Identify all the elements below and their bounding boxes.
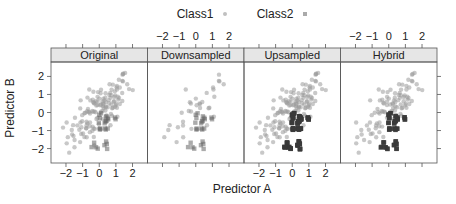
panel-original: Original−2−1012 — [51, 44, 148, 179]
panels: Original−2−1012Downsampled−2−1012Upsampl… — [51, 30, 437, 179]
x-tick-label-top: 0 — [386, 30, 392, 42]
x-tick-label-top: −2 — [156, 30, 169, 42]
x-tick-label: 0 — [289, 167, 295, 179]
legend: Class1Class2 — [177, 7, 307, 21]
x-tick-label-top: −2 — [349, 30, 362, 42]
legend-circle-icon — [223, 12, 227, 16]
x-tick-label: −2 — [253, 167, 266, 179]
x-tick-label-top: 1 — [402, 30, 408, 42]
y-tick-label: 1 — [38, 88, 44, 100]
x-tick-label-top: 1 — [209, 30, 215, 42]
panel-strip-label: Original — [80, 49, 118, 61]
scatter-chart: Class1Class2 Original−2−1012Downsampled−… — [0, 0, 456, 204]
y-tick-label: 2 — [38, 70, 44, 82]
y-axis-label: Predictor B — [3, 78, 17, 137]
class2-points — [186, 111, 214, 151]
x-tick-label: 1 — [113, 167, 119, 179]
panel-strip-label: Downsampled — [161, 49, 231, 61]
legend-square-icon — [303, 12, 307, 16]
x-tick-label: −1 — [76, 167, 89, 179]
x-tick-label-top: 0 — [193, 30, 199, 42]
x-tick-label: −1 — [269, 167, 282, 179]
legend-label-class1: Class1 — [177, 7, 214, 21]
class1-points — [162, 72, 226, 144]
panel-strip-label: Upsampled — [264, 49, 320, 61]
x-tick-label-top: −1 — [366, 30, 379, 42]
y-tick-label: 0 — [38, 107, 44, 119]
x-tick-label-top: −1 — [173, 30, 186, 42]
x-tick-label: 1 — [306, 167, 312, 179]
panel-upsampled: Upsampled−2−1012 — [244, 44, 341, 179]
x-tick-label-top: 2 — [419, 30, 425, 42]
x-axis-label: Predictor A — [213, 182, 272, 196]
y-tick-label: −2 — [31, 143, 44, 155]
panel-strip-label: Hybrid — [373, 49, 405, 61]
panel-hybrid: Hybrid−2−1012 — [341, 30, 438, 167]
x-tick-label: 2 — [322, 167, 328, 179]
panel-downsampled: Downsampled−2−1012 — [148, 30, 245, 167]
x-tick-label: −2 — [60, 167, 73, 179]
x-tick-label: 0 — [96, 167, 102, 179]
x-tick-label: 2 — [129, 167, 135, 179]
y-tick-label: −1 — [31, 125, 44, 137]
legend-label-class2: Class2 — [257, 7, 294, 21]
x-tick-label-top: 2 — [226, 30, 232, 42]
